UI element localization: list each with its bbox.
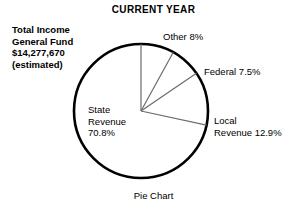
- pie-chart-graphic: [0, 0, 307, 210]
- slice-label-federal: Federal 7.5%: [204, 66, 261, 78]
- slice-label-state-line-2: Revenue: [88, 116, 126, 128]
- slice-label-state-line-1: State: [88, 104, 126, 116]
- slice-label-local-line-1: Local: [214, 115, 282, 127]
- slice-label-local: Local Revenue 12.9%: [214, 115, 282, 138]
- slice-label-state: State Revenue 70.8%: [88, 104, 126, 139]
- slice-label-local-line-2: Revenue 12.9%: [214, 127, 282, 139]
- pie-chart-figure: CURRENT YEAR Total Income General Fund $…: [0, 0, 307, 210]
- slice-label-state-line-3: 70.8%: [88, 127, 126, 139]
- figure-caption: Pie Chart: [0, 190, 307, 201]
- slice-label-other: Other 8%: [163, 31, 203, 43]
